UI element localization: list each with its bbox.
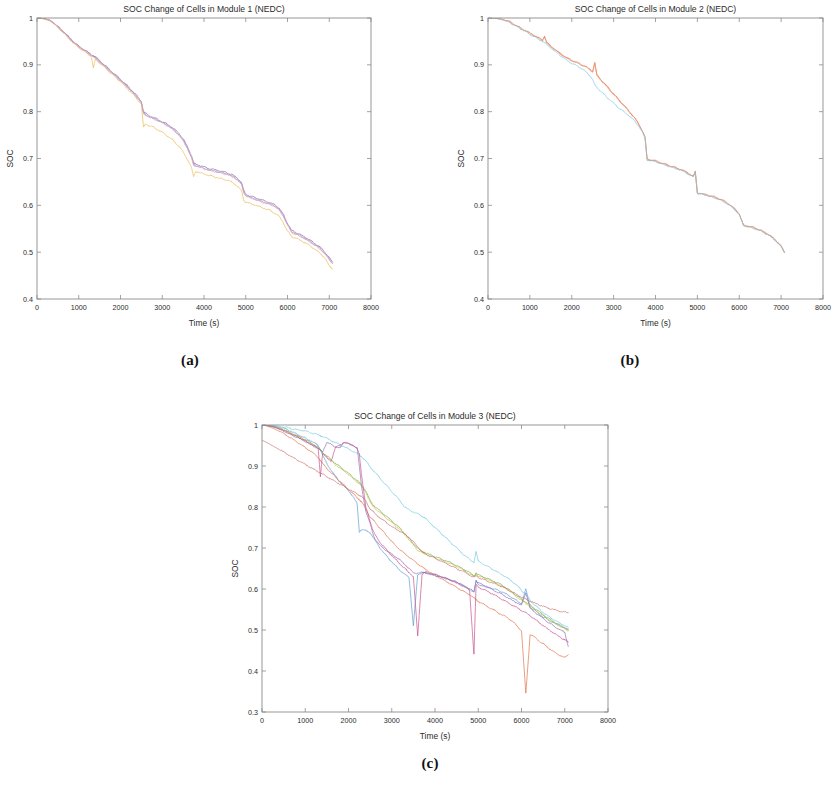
chart-module-1: SOC Change of Cells in Module 1 (NEDC)01… [0,0,420,340]
svg-text:7000: 7000 [321,303,337,312]
svg-text:0: 0 [260,716,264,725]
subfigure-b: SOC Change of Cells in Module 2 (NEDC)01… [450,0,833,340]
svg-text:Time (s): Time (s) [189,318,220,328]
subfigure-a: SOC Change of Cells in Module 1 (NEDC)01… [0,0,420,340]
svg-text:0.4: 0.4 [248,667,258,676]
svg-text:7000: 7000 [557,716,573,725]
svg-text:0.5: 0.5 [23,248,33,257]
svg-text:1: 1 [480,14,484,23]
svg-text:0.8: 0.8 [23,107,33,116]
svg-text:0: 0 [35,303,39,312]
svg-text:1: 1 [29,14,33,23]
svg-text:0.9: 0.9 [474,60,484,69]
svg-text:SOC Change of Cells in Module: SOC Change of Cells in Module 3 (NEDC) [354,411,516,421]
svg-text:3000: 3000 [154,303,170,312]
chart-module-2: SOC Change of Cells in Module 2 (NEDC)01… [450,0,833,340]
svg-text:5000: 5000 [238,303,254,312]
subfigure-caption-c: (c) [360,755,500,772]
svg-text:8000: 8000 [363,303,379,312]
svg-text:4000: 4000 [196,303,212,312]
svg-text:5000: 5000 [689,303,705,312]
svg-text:4000: 4000 [427,716,443,725]
subfigure-c: SOC Change of Cells in Module 3 (NEDC)01… [215,398,625,743]
svg-text:Time (s): Time (s) [640,318,671,328]
chart-module-3: SOC Change of Cells in Module 3 (NEDC)01… [215,398,625,743]
svg-text:6000: 6000 [514,716,530,725]
svg-text:0.6: 0.6 [23,201,33,210]
svg-text:0.6: 0.6 [248,585,258,594]
svg-text:Time (s): Time (s) [420,731,451,741]
figure-page: SOC Change of Cells in Module 1 (NEDC)01… [0,0,833,791]
svg-text:5000: 5000 [470,716,486,725]
svg-text:3000: 3000 [384,716,400,725]
svg-text:0.7: 0.7 [474,154,484,163]
svg-text:SOC: SOC [5,149,15,167]
svg-text:3000: 3000 [606,303,622,312]
svg-text:0.8: 0.8 [474,107,484,116]
svg-text:0.4: 0.4 [23,295,33,304]
svg-text:6000: 6000 [280,303,296,312]
svg-text:SOC Change of Cells in Module: SOC Change of Cells in Module 1 (NEDC) [123,4,285,14]
svg-text:SOC: SOC [230,559,240,577]
svg-text:0.8: 0.8 [248,503,258,512]
svg-text:0.9: 0.9 [248,462,258,471]
svg-text:0: 0 [486,303,490,312]
svg-text:1000: 1000 [297,716,313,725]
svg-text:SOC: SOC [456,149,466,167]
svg-text:8000: 8000 [815,303,831,312]
subfigure-caption-b: (b) [560,352,700,369]
svg-text:2000: 2000 [564,303,580,312]
svg-text:2000: 2000 [113,303,129,312]
svg-text:0.6: 0.6 [474,201,484,210]
svg-text:1: 1 [254,421,258,430]
svg-text:SOC Change of Cells in Module: SOC Change of Cells in Module 2 (NEDC) [575,4,737,14]
svg-text:8000: 8000 [600,716,616,725]
svg-text:0.7: 0.7 [248,544,258,553]
svg-text:0.9: 0.9 [23,60,33,69]
svg-text:6000: 6000 [731,303,747,312]
subfigure-caption-a: (a) [120,352,260,369]
svg-text:4000: 4000 [648,303,664,312]
svg-text:1000: 1000 [522,303,538,312]
svg-text:0.4: 0.4 [474,295,484,304]
svg-text:7000: 7000 [773,303,789,312]
svg-text:1000: 1000 [71,303,87,312]
svg-text:0.7: 0.7 [23,154,33,163]
svg-text:2000: 2000 [341,716,357,725]
svg-text:0.5: 0.5 [248,626,258,635]
svg-text:0.5: 0.5 [474,248,484,257]
svg-text:0.3: 0.3 [248,708,258,717]
